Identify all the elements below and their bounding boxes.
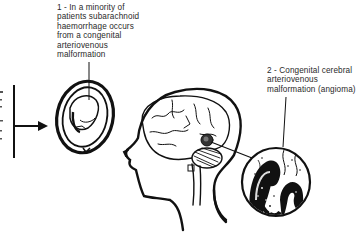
left-bracket-arrow <box>14 85 48 158</box>
label-2-text: 2 - Congenital cerebral arteriovenous ma… <box>267 66 360 94</box>
label-1-text: 1 - In a minority of patients subarachno… <box>57 3 157 59</box>
head-profile-with-brain <box>124 89 241 230</box>
label-2-pointer-line <box>283 97 286 147</box>
magnified-angioma-circle <box>242 148 312 220</box>
diagram-canvas <box>0 0 360 241</box>
brain-cross-section-oval <box>50 76 120 158</box>
cut-off-text-fragments <box>0 91 3 140</box>
